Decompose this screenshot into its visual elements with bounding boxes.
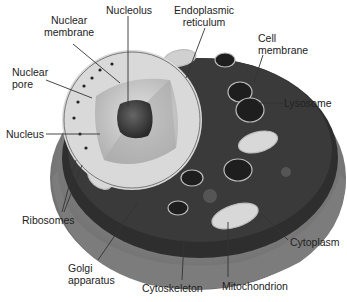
label-line: Golgi (68, 262, 115, 274)
nucleus (62, 50, 202, 190)
label-line: membrane (44, 26, 94, 38)
label-endoplasmic-reticulum: Endoplasmic reticulum (174, 4, 234, 28)
label-lysosome: Lysosome (284, 97, 331, 109)
label-line: reticulum (174, 16, 234, 28)
label-line: membrane (258, 44, 308, 56)
label-line: pore (12, 78, 48, 90)
label-line: Cell (258, 32, 308, 44)
label-golgi-apparatus: Golgi apparatus (68, 262, 115, 286)
label-nucleus: Nucleus (6, 128, 44, 140)
label-nuclear-pore: Nuclear pore (12, 66, 48, 90)
label-cytoskeleton: Cytoskeleton (142, 282, 203, 294)
label-line: apparatus (68, 274, 115, 286)
label-nuclear-membrane: Nuclear membrane (44, 14, 94, 38)
label-cell-membrane: Cell membrane (258, 32, 308, 56)
label-line: Nuclear (44, 14, 94, 26)
cell-diagram: Nucleolus Nuclear membrane Nuclear pore … (0, 0, 347, 302)
label-line: Endoplasmic (174, 4, 234, 16)
label-nucleolus: Nucleolus (106, 4, 152, 16)
label-line: Nuclear (12, 66, 48, 78)
label-cytoplasm: Cytoplasm (290, 236, 340, 248)
label-mitochondrion: Mitochondrion (222, 280, 288, 292)
label-ribosomes: Ribosomes (22, 214, 75, 226)
